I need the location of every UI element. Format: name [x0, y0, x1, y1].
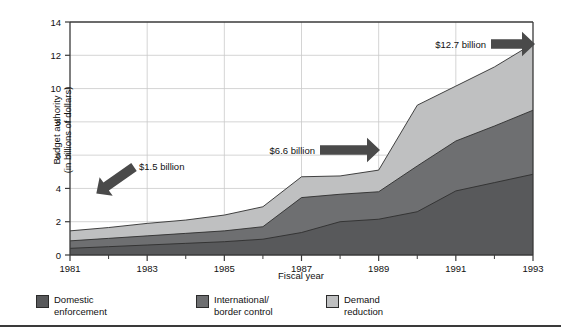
legend-swatch-icon: [326, 295, 339, 308]
y-tick-label: 14: [50, 17, 61, 28]
legend-label-line2: enforcement: [54, 306, 107, 317]
legend-item-international-border-control[interactable]: International/ border control: [196, 294, 326, 317]
y-tick-label: 6: [56, 150, 61, 161]
legend-label-line1: International/: [214, 294, 269, 305]
x-tick-label: 1993: [522, 263, 543, 274]
legend-label-line2: reduction: [344, 306, 383, 317]
legend-item-demand-reduction[interactable]: Demand reduction: [326, 294, 446, 317]
y-tick-label: 10: [50, 83, 61, 94]
x-tick-label: 1989: [368, 263, 389, 274]
annotation-label-1981: $1.5 billion: [139, 161, 184, 172]
chart-figure: 02468101214 1981198319851987198919911993…: [0, 0, 561, 332]
stacked-area-chart: 02468101214 1981198319851987198919911993…: [0, 0, 561, 332]
annotation-label-1993: $12.7 billion: [435, 39, 486, 50]
y-tick-label: 8: [56, 116, 61, 127]
legend-item-domestic-enforcement[interactable]: Domestic enforcement: [36, 294, 196, 317]
y-tick-label: 0: [56, 250, 61, 261]
x-axis-title: Fiscal year: [278, 270, 324, 281]
legend-swatch-icon: [196, 295, 209, 308]
legend-label-line1: Demand: [344, 294, 380, 305]
x-tick-label: 1981: [59, 263, 80, 274]
y-tick-label: 12: [50, 50, 61, 61]
y-axis-ticks: 02468101214: [50, 17, 70, 261]
legend-swatch-icon: [36, 295, 49, 308]
y-tick-label: 4: [56, 183, 61, 194]
legend-label-line2: border control: [214, 306, 273, 317]
chart-legend: Domestic enforcement International/ bord…: [36, 294, 446, 317]
y-tick-label: 2: [56, 216, 61, 227]
annotation-label-1988: $6.6 billion: [270, 145, 315, 156]
x-tick-label: 1983: [137, 263, 158, 274]
x-tick-label: 1991: [445, 263, 466, 274]
footer-divider: [0, 325, 561, 327]
legend-label-line1: Domestic: [54, 294, 94, 305]
x-tick-label: 1985: [214, 263, 235, 274]
